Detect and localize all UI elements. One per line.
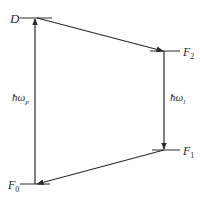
level-f0-label: F0 xyxy=(7,178,19,194)
decay-d-to-f2-arrow xyxy=(37,18,163,51)
pump-label: ħωp xyxy=(12,91,29,106)
energy-level-diagram: D F2 F1 F0 ħωp ħωl xyxy=(0,0,200,205)
laser-label: ħωl xyxy=(170,91,185,106)
level-f2-label: F2 xyxy=(182,45,194,61)
decay-f1-to-f0-arrow xyxy=(37,150,164,184)
level-d-label: D xyxy=(9,11,20,26)
level-f1-label: F1 xyxy=(182,144,194,160)
